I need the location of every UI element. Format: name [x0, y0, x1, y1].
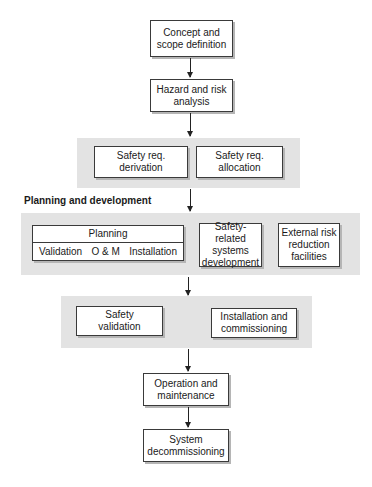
node-label: scope definition — [157, 39, 227, 51]
arrow-down — [188, 407, 189, 427]
node-label: External risk — [281, 227, 336, 239]
node-label: Safety req. — [215, 150, 263, 162]
safety-related-systems-node: Safety-related systems development — [199, 223, 262, 267]
node-label: validation — [98, 321, 140, 333]
arrow-down — [188, 349, 189, 371]
node-label: Concept and — [163, 27, 220, 39]
node-label: facilities — [291, 251, 327, 263]
node-label: maintenance — [157, 390, 214, 402]
section-label-planning-development: Planning and development — [24, 195, 151, 206]
safety-req-allocation-node: Safety req. allocation — [196, 146, 283, 178]
planning-subitem-om: O & M — [92, 243, 120, 261]
operation-maintenance-node: Operation and maintenance — [143, 373, 229, 406]
node-label: reduction — [288, 239, 329, 251]
installation-commissioning-node: Installation and commissioning — [211, 308, 297, 338]
node-label: Safety-related — [200, 221, 261, 245]
planning-subitem-installation: Installation — [129, 243, 177, 261]
planning-subitem-validation: Validation — [39, 243, 82, 261]
node-label: systems — [212, 245, 249, 257]
node-label: decommissioning — [147, 446, 224, 458]
safety-req-derivation-node: Safety req. derivation — [94, 146, 188, 178]
node-label: Safety — [105, 309, 133, 321]
system-decommissioning-node: System decommissioning — [143, 429, 229, 462]
arrow-down — [190, 113, 191, 136]
concept-scope-node: Concept and scope definition — [150, 20, 233, 57]
node-label: Installation and — [220, 311, 287, 323]
planning-subitems: Validation O & M Installation — [33, 243, 183, 261]
node-label: analysis — [173, 96, 209, 108]
planning-title: Planning — [33, 226, 183, 243]
planning-node: Planning Validation O & M Installation — [32, 225, 184, 261]
node-label: Operation and — [154, 378, 217, 390]
node-label: derivation — [119, 162, 162, 174]
safety-validation-node: Safety validation — [76, 306, 163, 336]
node-label: commissioning — [221, 323, 287, 335]
node-label: allocation — [218, 162, 260, 174]
node-label: development — [202, 257, 259, 269]
arrow-down — [190, 189, 191, 211]
node-label: System — [169, 434, 202, 446]
node-label: Safety req. — [117, 150, 165, 162]
node-label: Hazard and risk — [156, 84, 226, 96]
arrow-down — [190, 58, 191, 77]
external-risk-reduction-node: External risk reduction facilities — [278, 223, 340, 267]
hazard-risk-node: Hazard and risk analysis — [150, 79, 233, 112]
arrow-down — [188, 277, 189, 295]
